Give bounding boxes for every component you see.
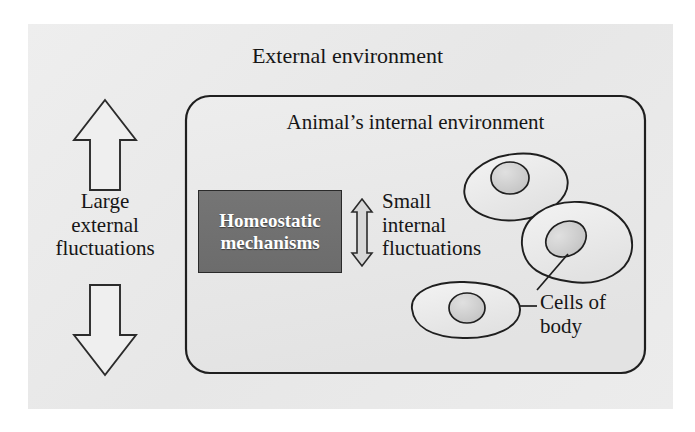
large-external-fluctuations-label: Large external fluctuations <box>30 190 180 261</box>
figure-root: External environment Animal’s internal e… <box>0 0 695 432</box>
homeostatic-mechanisms-label: Homeostatic mechanisms <box>219 210 320 253</box>
internal-environment-label: Animal’s internal environment <box>186 111 645 135</box>
large-arrow-down <box>74 285 136 375</box>
external-environment-label: External environment <box>0 44 695 69</box>
cells-of-body-label: Cells of body <box>540 291 680 338</box>
small-internal-fluctuations-label: Small internal fluctuations <box>382 190 532 261</box>
homeostatic-mechanisms-box: Homeostatic mechanisms <box>198 190 342 273</box>
large-arrow-up <box>74 100 136 190</box>
cell-3-nucleus <box>449 293 485 323</box>
